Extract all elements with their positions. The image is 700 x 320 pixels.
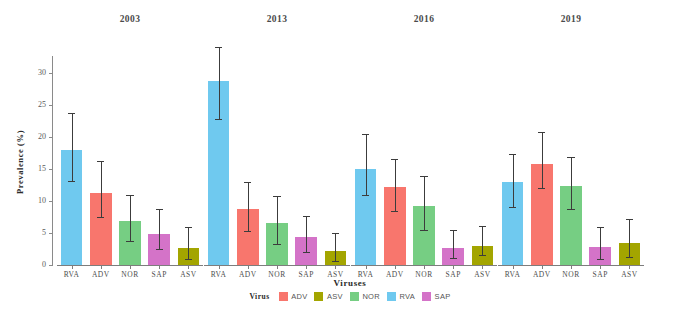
x-tick-mark [306,266,307,269]
x-tick-mark [513,266,514,269]
y-tick-label: 5 [28,229,46,237]
y-axis-line [52,56,53,266]
panel-title-2013: 2013 [204,14,350,24]
panel-2003 [57,60,203,265]
errorbar-cap-lower [332,261,339,262]
x-tick-mark [600,266,601,269]
errorbar-cap-upper [479,226,486,227]
legend-item-ADV[interactable]: ADV [279,292,308,301]
errorbar-cap-lower [391,211,398,212]
x-tick-mark [366,266,367,269]
errorbar-cap-upper [567,157,574,158]
x-tick-mark [424,266,425,269]
errorbar-cap-upper [215,47,222,48]
errorbar-2019-SAP [600,227,601,259]
errorbar-cap-lower [509,207,516,208]
legend-label-ASV: ASV [327,292,343,301]
errorbar-cap-lower [215,119,222,120]
x-tick-mark [101,266,102,269]
errorbar-cap-lower [273,244,280,245]
x-tick-mark [72,266,73,269]
chart-root: Prevalence (%) 051015202530 2003RVAADVNO… [0,0,700,320]
errorbar-cap-lower [97,217,104,218]
legend-swatch-ASV [314,292,323,301]
y-tick-mark [49,105,52,106]
legend-title: Virus [249,292,269,301]
x-tick-mark [629,266,630,269]
x-tick-mark [130,266,131,269]
errorbar-cap-lower [156,249,163,250]
errorbar-2013-SAP [306,216,307,252]
errorbar-cap-lower [450,258,457,259]
y-tick-mark [49,73,52,74]
y-tick-label: 25 [28,101,46,109]
errorbar-cap-upper [362,134,369,135]
errorbar-cap-lower [303,252,310,253]
errorbar-2019-NOR [571,157,572,209]
x-tick-mark [277,266,278,269]
legend-swatch-ADV [279,292,288,301]
legend-item-SAP[interactable]: SAP [422,292,450,301]
errorbar-2016-ASV [482,226,483,255]
errorbar-2016-NOR [424,176,425,230]
errorbar-cap-upper [420,176,427,177]
errorbar-cap-lower [538,188,545,189]
errorbar-2003-ADV [101,161,102,217]
panel-2016 [351,60,497,265]
errorbar-cap-lower [597,259,604,260]
x-tick-mark [159,266,160,269]
errorbar-cap-lower [185,259,192,260]
legend-swatch-NOR [350,292,359,301]
errorbar-2016-SAP [453,230,454,258]
errorbar-cap-upper [509,154,516,155]
errorbar-cap-lower [567,209,574,210]
panel-2013 [204,60,350,265]
chart-legend: Virus ADVASVNORRVASAP [0,292,700,301]
legend-swatch-RVA [387,292,396,301]
errorbar-2003-ASV [188,227,189,259]
errorbar-cap-lower [68,181,75,182]
x-axis-title: Viruses [0,278,700,288]
errorbar-2003-NOR [130,195,131,240]
y-tick-label: 20 [28,133,46,141]
legend-label-RVA: RVA [399,292,415,301]
errorbar-2003-RVA [72,113,73,181]
panel-title-2019: 2019 [498,14,644,24]
legend-swatch-SAP [422,292,431,301]
x-tick-mark [335,266,336,269]
x-tick-mark [542,266,543,269]
y-tick-mark [49,233,52,234]
errorbar-cap-lower [244,231,251,232]
y-axis-title: Prevalence (%) [15,72,25,252]
y-tick-mark [49,169,52,170]
y-tick-mark [49,137,52,138]
x-tick-mark [248,266,249,269]
errorbar-cap-upper [597,227,604,228]
x-tick-mark [188,266,189,269]
y-tick-label: 30 [28,69,46,77]
x-tick-mark [219,266,220,269]
errorbar-cap-lower [420,230,427,231]
errorbar-cap-upper [626,219,633,220]
legend-item-RVA[interactable]: RVA [387,292,415,301]
legend-label-NOR: NOR [362,292,380,301]
errorbar-cap-lower [479,255,486,256]
errorbar-2013-ASV [335,233,336,261]
errorbar-cap-upper [332,233,339,234]
errorbar-2013-ADV [248,182,249,231]
y-tick-mark [49,265,52,266]
errorbar-cap-upper [97,161,104,162]
y-tick-label: 0 [28,261,46,269]
legend-item-ASV[interactable]: ASV [314,292,342,301]
errorbar-cap-upper [126,195,133,196]
x-tick-mark [571,266,572,269]
y-tick-mark [49,201,52,202]
legend-item-NOR[interactable]: NOR [350,292,380,301]
errorbar-cap-upper [303,216,310,217]
errorbar-cap-upper [244,182,251,183]
panel-2019 [498,60,644,265]
y-tick-label: 10 [28,197,46,205]
errorbar-cap-upper [68,113,75,114]
legend-label-ADV: ADV [291,292,307,301]
errorbar-2016-RVA [366,134,367,195]
